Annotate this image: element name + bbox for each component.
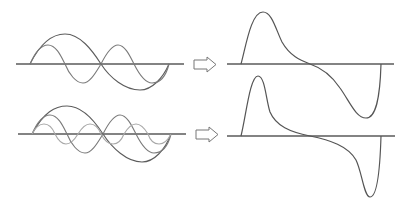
component-waves-panel: [16, 34, 184, 90]
row-two-harmonics: [16, 12, 394, 118]
component-waves-panel: [18, 106, 186, 162]
result-wave-panel: [227, 76, 395, 197]
right-outline-arrow-icon: [196, 127, 218, 142]
result-wave-panel: [227, 12, 394, 118]
row-three-harmonics: [18, 76, 395, 197]
fourier-synthesis-diagram: [0, 0, 404, 209]
sum-waveform: [241, 12, 381, 118]
right-outline-arrow-icon: [194, 57, 216, 72]
